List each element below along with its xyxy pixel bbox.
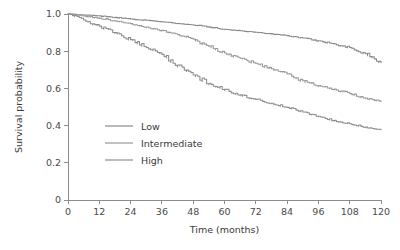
y-tick-label: 0.4: [46, 120, 61, 131]
y-tick-label: 0.8: [46, 46, 61, 57]
x-tick-label: 12: [93, 206, 105, 217]
y-tick-label: 1.0: [46, 8, 61, 19]
series-curves: [68, 14, 381, 130]
x-tick-label: 72: [250, 206, 262, 217]
x-axis-tick-labels: 01224364860728496108120: [65, 206, 390, 217]
y-tick-label: 0: [55, 194, 61, 205]
y-tick-label: 0.6: [46, 83, 61, 94]
y-axis-tick-labels: 00.20.40.60.81.0: [46, 8, 61, 205]
x-tick-label: 108: [341, 206, 359, 217]
y-axis-title: Survival probability: [13, 61, 24, 153]
y-tick-label: 0.2: [46, 157, 61, 168]
x-tick-label: 96: [312, 206, 324, 217]
legend-label-intermediate[interactable]: Intermediate: [141, 138, 202, 149]
x-tick-label: 48: [187, 206, 199, 217]
x-tick-label: 120: [372, 206, 390, 217]
x-tick-label: 24: [125, 206, 137, 217]
survival-curve-chart: 00.20.40.60.81.0 01224364860728496108120…: [0, 0, 400, 250]
chart-canvas: 00.20.40.60.81.0 01224364860728496108120…: [0, 0, 400, 250]
x-axis-title: Time (months): [189, 224, 259, 235]
legend-label-high[interactable]: High: [141, 155, 163, 166]
x-tick-label: 84: [281, 206, 293, 217]
chart-legend: LowIntermediateHigh: [105, 121, 202, 166]
legend-label-low[interactable]: Low: [141, 121, 160, 132]
x-tick-label: 36: [156, 206, 168, 217]
curve-intermediate: [68, 14, 381, 101]
x-tick-label: 60: [218, 206, 230, 217]
curve-high: [68, 14, 381, 130]
x-tick-label: 0: [65, 206, 71, 217]
axis-tick-marks: [64, 14, 381, 204]
